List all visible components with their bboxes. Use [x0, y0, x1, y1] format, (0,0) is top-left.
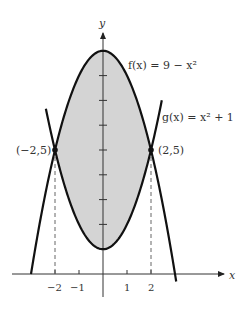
- intersection-point-left: [52, 147, 58, 153]
- intersection-point-right: [148, 147, 154, 153]
- g-label: g(x) = x² + 1: [162, 111, 234, 124]
- f-label: f(x) = 9 − x²: [128, 59, 197, 72]
- right-point-label: (2,5): [158, 144, 184, 157]
- x-tick-label-2: 2: [148, 282, 154, 293]
- area-between-curves-diagram: y x f(x) = 9 − x² g(x) = x² + 1 (−2,5) (…: [0, 0, 238, 312]
- x-tick-label-minus-1: −1: [70, 282, 85, 293]
- x-tick-label-minus-2: −2: [47, 282, 62, 293]
- left-point-label: (−2,5): [16, 144, 51, 157]
- x-axis-label: x: [229, 269, 236, 282]
- y-axis-label: y: [98, 17, 106, 30]
- x-tick-label-1: 1: [124, 282, 130, 293]
